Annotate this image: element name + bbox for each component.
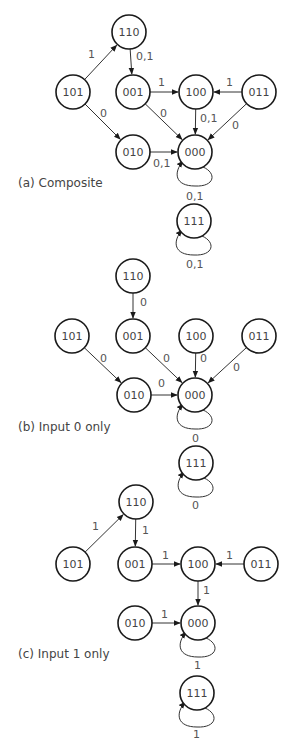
transition-label: 0 (100, 352, 107, 365)
state-node-111: 111 (179, 446, 213, 480)
state-node-001: 001 (116, 75, 150, 109)
state-node-110: 110 (116, 259, 150, 293)
panel-caption: (c) Input 1 only (18, 647, 110, 661)
self-loop-label: 0,1 (186, 190, 204, 203)
state-label: 101 (62, 330, 83, 343)
panel-caption: (a) Composite (18, 176, 103, 190)
transition-label: 1 (161, 608, 168, 621)
state-label: 100 (186, 330, 207, 343)
transition-label: 0 (158, 377, 165, 390)
transition-label: 0 (163, 352, 170, 365)
state-label: 000 (185, 146, 206, 159)
transition-label: 0 (160, 107, 167, 120)
transition-arrow (208, 348, 246, 383)
transition-label: 1 (203, 584, 210, 597)
state-node-010: 010 (117, 378, 151, 412)
state-diagram: 1101010011000110100001111101010011000110… (0, 0, 294, 748)
state-node-110: 110 (112, 15, 146, 49)
state-node-000: 000 (181, 606, 215, 640)
state-label: 010 (125, 617, 146, 630)
state-node-110: 110 (119, 485, 153, 519)
state-label: 101 (63, 86, 84, 99)
self-loop-label: 1 (194, 659, 201, 672)
state-node-111: 111 (177, 204, 211, 238)
transition-label: 1 (142, 524, 149, 537)
state-node-000: 000 (178, 378, 212, 412)
state-label: 100 (186, 86, 207, 99)
state-node-001: 001 (118, 547, 152, 581)
transition-label: 0 (100, 107, 107, 120)
state-node-100: 100 (179, 75, 213, 109)
state-node-101: 101 (55, 319, 89, 353)
state-node-011: 011 (244, 547, 278, 581)
state-label: 001 (123, 330, 144, 343)
transition-label: 0,1 (136, 50, 154, 63)
state-label: 011 (249, 330, 270, 343)
transition-label: 1 (88, 48, 95, 61)
state-label: 111 (186, 457, 207, 470)
transition-label: 0,1 (153, 157, 171, 170)
state-label: 110 (123, 270, 144, 283)
state-label: 001 (125, 558, 146, 571)
state-node-011: 011 (242, 75, 276, 109)
transition-label: 0 (140, 296, 147, 309)
state-node-000: 000 (178, 135, 212, 169)
self-loop-label: 0 (192, 499, 199, 512)
state-node-101: 101 (56, 547, 90, 581)
transition-label: 1 (92, 520, 99, 533)
state-label: 101 (63, 558, 84, 571)
state-label: 001 (123, 86, 144, 99)
panel-caption: (b) Input 0 only (18, 420, 111, 434)
state-label: 110 (119, 26, 140, 39)
state-node-101: 101 (56, 75, 90, 109)
state-label: 011 (249, 86, 270, 99)
state-node-001: 001 (116, 319, 150, 353)
state-node-011: 011 (242, 319, 276, 353)
transition-label: 1 (162, 549, 169, 562)
state-label: 011 (251, 558, 272, 571)
state-label: 100 (188, 558, 209, 571)
state-node-100: 100 (181, 547, 215, 581)
state-label: 010 (123, 146, 144, 159)
state-label: 111 (187, 687, 208, 700)
state-node-100: 100 (179, 319, 213, 353)
state-label: 110 (126, 496, 147, 509)
transition-label: 0 (232, 119, 239, 132)
transition-arrow (85, 515, 123, 552)
self-loop-label: 0,1 (186, 258, 204, 271)
transition-label: 0 (200, 352, 207, 365)
state-label: 000 (188, 617, 209, 630)
state-label: 010 (124, 389, 145, 402)
state-node-010: 010 (118, 606, 152, 640)
state-node-010: 010 (116, 135, 150, 169)
state-label: 000 (185, 389, 206, 402)
state-label: 111 (184, 215, 205, 228)
transition-label: 0 (233, 361, 240, 374)
transition-arrow (130, 49, 132, 74)
self-loop-label: 1 (193, 728, 200, 741)
transition-label: 0,1 (200, 112, 218, 125)
self-loop-label: 0 (192, 432, 199, 445)
transition-label: 1 (158, 76, 165, 89)
transition-label: 1 (226, 76, 233, 89)
transition-label: 1 (226, 549, 233, 562)
state-node-111: 111 (180, 676, 214, 710)
